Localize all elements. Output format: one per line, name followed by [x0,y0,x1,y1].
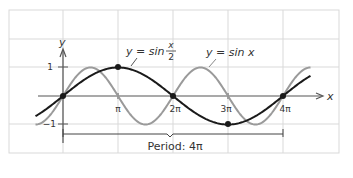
point-4pi [280,93,286,99]
x-tick-2pi: 2π [169,104,181,114]
sin-half-numerator: x [167,40,174,50]
point-2pi [170,93,176,99]
point-0 [60,93,66,99]
x-tick-3pi: 3π [220,104,232,114]
grid [9,10,339,153]
y-axis-label: y [58,36,66,49]
x-axis: x [38,90,334,103]
x-axis-label: x [326,90,334,103]
grid-border [9,10,339,153]
label-sin-half-x: y = sin x 2 [125,40,176,66]
leader-line [209,59,216,67]
x-tick-pi: π [115,104,121,114]
y-axis: y 1 −1 [43,36,68,143]
leader-line [131,58,137,66]
label-sin-x: y = sin x [205,46,255,67]
sin-half-prefix: y = sin [125,45,165,58]
point-3pi [225,121,231,127]
sine-period-chart: x y 1 −1 π 2π 3π 4π y = sin x 2 [0,0,353,178]
period-label: Period: 4π [147,140,203,153]
point-pi [115,64,121,70]
y-tick-1: 1 [47,62,53,72]
x-tick-4pi: 4π [279,104,291,114]
sin-half-denominator: 2 [168,52,174,62]
sin-x-label: y = sin x [205,46,255,59]
